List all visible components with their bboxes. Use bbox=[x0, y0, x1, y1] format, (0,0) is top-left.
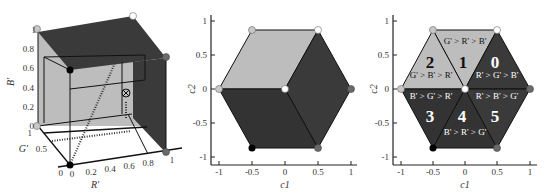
svg-text:0: 0 bbox=[283, 167, 288, 177]
svg-text:G': G' bbox=[19, 143, 29, 154]
svg-text:0.5: 0.5 bbox=[196, 50, 208, 60]
svg-text:5: 5 bbox=[491, 107, 500, 126]
svg-text:3: 3 bbox=[426, 107, 435, 126]
corner-dot-white bbox=[130, 13, 137, 20]
svg-text:R' > B' > G': R' > B' > G' bbox=[476, 91, 519, 101]
svg-text:1: 1 bbox=[32, 25, 37, 35]
svg-text:R' > G' > B': R' > G' > B' bbox=[476, 70, 519, 80]
corner-dot-black bbox=[67, 162, 74, 169]
svg-text:1: 1 bbox=[203, 16, 208, 26]
svg-text:0.4: 0.4 bbox=[23, 83, 35, 93]
panel-hue-sectors: 0 1 2 3 4 5 R' > G' > B' G' > R' > B' G'… bbox=[368, 15, 537, 190]
svg-text:-0.5: -0.5 bbox=[375, 118, 390, 128]
svg-text:4: 4 bbox=[458, 107, 467, 126]
svg-text:0: 0 bbox=[463, 167, 468, 177]
svg-text:0: 0 bbox=[203, 84, 208, 94]
panel-hexagon: 1 0.5 0 -0.5 -1 -1 -0.5 0 0.5 1 c1 c2 bbox=[186, 15, 357, 190]
svg-text:B': B' bbox=[5, 77, 16, 86]
svg-text:1: 1 bbox=[459, 53, 468, 72]
b-axis: 1 0.8 0.6 0.4 0.2 0 B' bbox=[5, 25, 36, 131]
corner-dot-magenta bbox=[163, 54, 170, 61]
svg-text:G' > R' > B': G' > R' > B' bbox=[444, 36, 487, 46]
svg-text:-0.5: -0.5 bbox=[245, 167, 260, 177]
c2-axis-label: c2 bbox=[186, 84, 197, 93]
r-axis: 0 0.2 0.4 0.6 0.8 1 R' bbox=[70, 155, 175, 190]
svg-text:B' > G' > R': B' > G' > R' bbox=[410, 91, 453, 101]
svg-text:0.6: 0.6 bbox=[123, 161, 135, 171]
svg-text:0.4: 0.4 bbox=[104, 164, 116, 174]
svg-text:-1: -1 bbox=[397, 167, 405, 177]
svg-text:0.8: 0.8 bbox=[23, 44, 35, 54]
svg-text:0.2: 0.2 bbox=[23, 102, 34, 112]
svg-text:0.5: 0.5 bbox=[36, 144, 48, 154]
svg-text:R': R' bbox=[90, 179, 100, 190]
c1-axis-label: c1 bbox=[280, 179, 289, 190]
c2-axis-label: c2 bbox=[368, 84, 379, 93]
svg-text:B' > R' > G': B' > R' > G' bbox=[444, 127, 487, 137]
svg-text:-0.5: -0.5 bbox=[426, 167, 441, 177]
g-axis: 1 0.5 G' 0 bbox=[19, 128, 64, 178]
svg-text:0.2: 0.2 bbox=[85, 167, 96, 177]
svg-text:0.5: 0.5 bbox=[312, 167, 324, 177]
svg-text:0.8: 0.8 bbox=[142, 158, 154, 168]
svg-text:-1: -1 bbox=[215, 167, 223, 177]
corner-dot-blue bbox=[67, 67, 74, 74]
cube-dark-right-face bbox=[133, 58, 166, 153]
svg-text:1: 1 bbox=[349, 167, 354, 177]
svg-text:0.5: 0.5 bbox=[378, 50, 390, 60]
svg-text:-1: -1 bbox=[200, 152, 208, 162]
corner-dot-green bbox=[34, 123, 41, 130]
svg-text:0.5: 0.5 bbox=[491, 167, 503, 177]
c1-axis-label: c1 bbox=[460, 179, 469, 190]
corner-dot-red bbox=[163, 149, 170, 156]
svg-text:-0.5: -0.5 bbox=[193, 118, 208, 128]
svg-text:0: 0 bbox=[59, 168, 64, 178]
svg-text:1: 1 bbox=[528, 167, 533, 177]
panel-rgb-cube: 1 0.8 0.6 0.4 0.2 0 B' 1 0.5 G' 0 0 0.2 … bbox=[5, 13, 182, 191]
svg-text:1: 1 bbox=[28, 128, 33, 138]
svg-text:0: 0 bbox=[70, 169, 75, 179]
cross-circle-marker bbox=[122, 89, 130, 97]
svg-text:1: 1 bbox=[385, 16, 390, 26]
svg-text:-1: -1 bbox=[382, 152, 390, 162]
svg-text:G' > B' > R': G' > B' > R' bbox=[410, 70, 453, 80]
figure: 1 0.8 0.6 0.4 0.2 0 B' 1 0.5 G' 0 0 0.2 … bbox=[0, 0, 548, 195]
svg-text:1: 1 bbox=[170, 155, 175, 165]
svg-text:0.6: 0.6 bbox=[23, 63, 35, 73]
svg-text:0: 0 bbox=[385, 84, 390, 94]
